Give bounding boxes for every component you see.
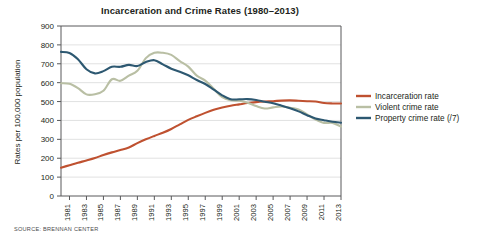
series-lines <box>61 52 341 168</box>
source-note: SOURCE: BRENNAN CENTER <box>14 226 98 232</box>
x-tick-label: 1991 <box>147 204 156 221</box>
x-tick-label: 1987 <box>113 204 122 221</box>
y-tick-label: 900 <box>41 22 55 31</box>
x-tick-label: 1993 <box>164 204 173 221</box>
x-tick-label: 2013 <box>334 204 343 221</box>
x-tick-label: 1983 <box>80 204 89 221</box>
y-axis-title: Rates per 100,000 population <box>13 60 22 165</box>
y-tick-label: 400 <box>41 116 55 125</box>
x-tick-label: 1997 <box>198 204 207 221</box>
x-tick-label: 1995 <box>181 204 190 221</box>
x-tick-label: 1981 <box>63 204 72 221</box>
x-axis-ticks: 1981198319851987198919911993199519971999… <box>63 196 344 221</box>
y-tick-label: 800 <box>41 41 55 50</box>
x-tick-label: 1985 <box>96 204 105 221</box>
chart-figure: Incarceration and Crime Rates (1980–2013… <box>0 0 481 242</box>
x-tick-label: 2007 <box>283 204 292 221</box>
series-line-3 <box>61 52 341 123</box>
x-tick-label: 1989 <box>130 204 139 221</box>
y-tick-label: 100 <box>41 173 55 182</box>
legend-label: Violent crime rate <box>375 103 439 112</box>
legend-label: Property crime rate (/7) <box>375 114 459 123</box>
y-tick-label: 700 <box>41 60 55 69</box>
legend-label: Incarceration rate <box>375 92 439 101</box>
x-tick-label: 2003 <box>249 204 258 221</box>
line-chart: 0100200300400500600700800900 19811983198… <box>0 0 481 242</box>
x-tick-label: 2001 <box>232 204 241 221</box>
y-tick-label: 500 <box>41 98 55 107</box>
y-tick-label: 200 <box>41 154 55 163</box>
x-tick-label: 1999 <box>215 204 224 221</box>
x-tick-label: 2005 <box>266 204 275 221</box>
x-tick-label: 2009 <box>300 204 309 221</box>
y-tick-label: 600 <box>41 79 55 88</box>
y-tick-label: 0 <box>50 192 55 201</box>
y-axis-ticks: 0100200300400500600700800900 <box>41 22 61 201</box>
x-tick-label: 2011 <box>317 204 326 220</box>
y-tick-label: 300 <box>41 135 55 144</box>
chart-legend: Incarceration rateViolent crime rateProp… <box>356 92 459 123</box>
